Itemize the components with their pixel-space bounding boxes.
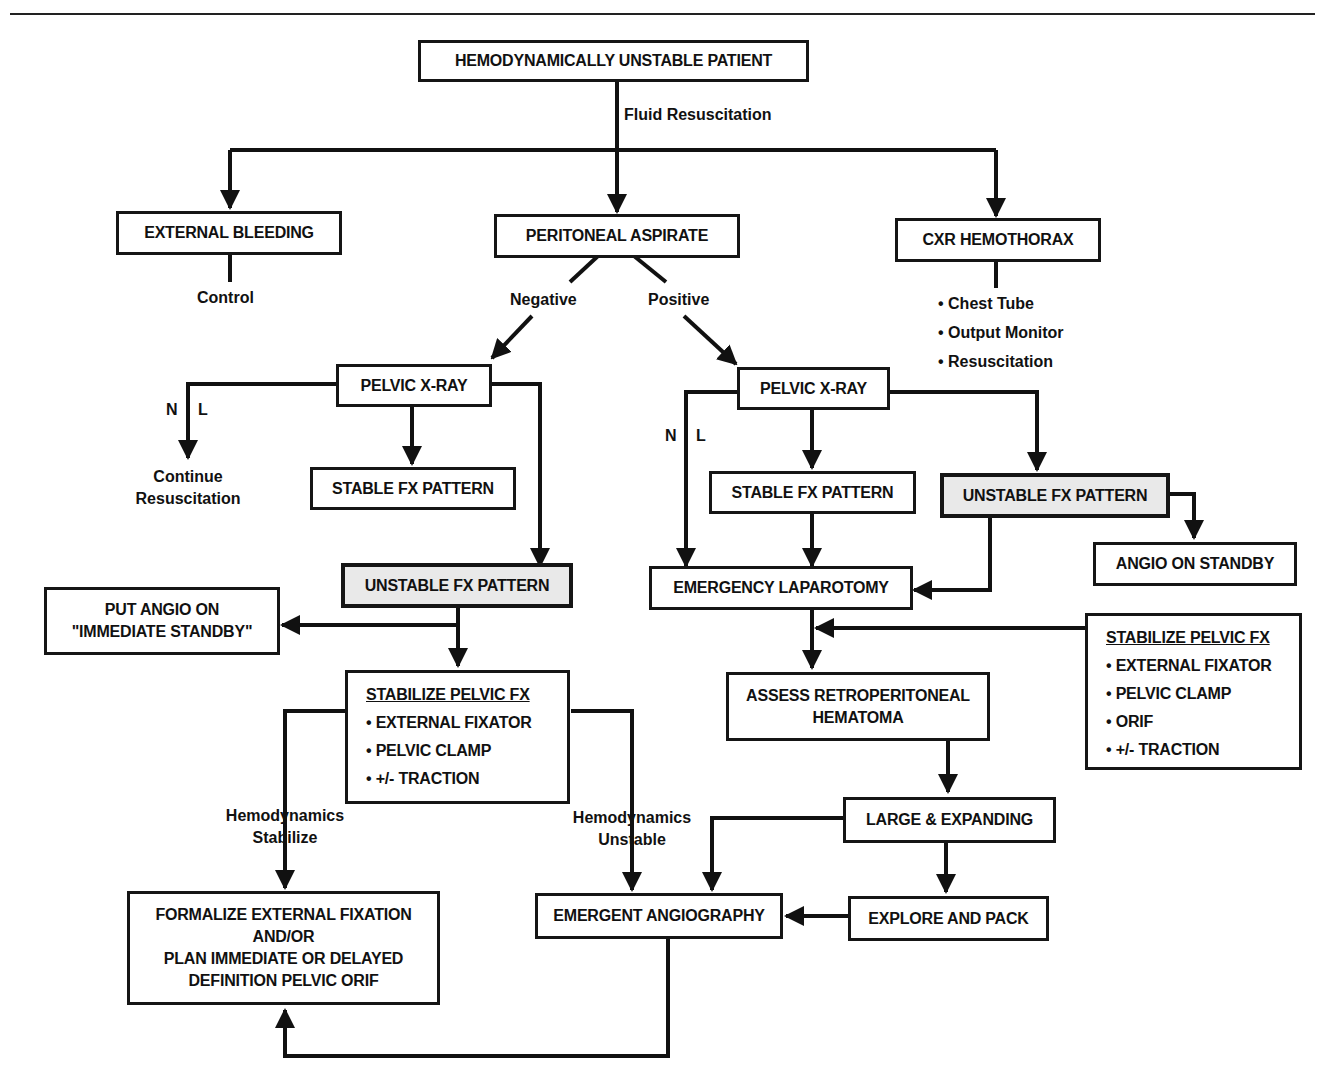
label-line: Unstable: [562, 829, 702, 851]
label-line: Resuscitation: [128, 488, 248, 510]
list-header: STABILIZE PELVIC FX: [366, 681, 530, 709]
node-label: PELVIC X-RAY: [760, 378, 867, 400]
edge-label-l-right: L: [696, 425, 706, 447]
label-line: Hemodynamics: [562, 807, 702, 829]
node-stabilize-pelvic-fx-right: STABILIZE PELVIC FX • EXTERNAL FIXATOR •…: [1085, 613, 1302, 770]
node-cxr-hemothorax: CXR HEMOTHORAX: [895, 218, 1101, 262]
list-item: • ORIF: [1106, 708, 1153, 736]
edge-label-continue-resuscitation: Continue Resuscitation: [128, 466, 248, 510]
node-label: STABLE FX PATTERN: [732, 482, 894, 504]
node-label: EMERGENT ANGIOGRAPHY: [553, 905, 764, 927]
node-put-angio-immediate-standby: PUT ANGIO ON "IMMEDIATE STANDBY": [44, 587, 280, 655]
node-label-line: HEMATOMA: [812, 707, 903, 729]
node-explore-and-pack: EXPLORE AND PACK: [848, 896, 1049, 941]
edge-label-n-left: N: [166, 399, 178, 421]
node-label: CXR HEMOTHORAX: [923, 229, 1074, 251]
node-label: EXPLORE AND PACK: [868, 908, 1028, 930]
node-assess-retroperitoneal-hematoma: ASSESS RETROPERITONEAL HEMATOMA: [726, 672, 990, 741]
label-line: Hemodynamics: [215, 805, 355, 827]
node-hemodynamically-unstable-patient: HEMODYNAMICALLY UNSTABLE PATIENT: [418, 40, 809, 82]
node-label: HEMODYNAMICALLY UNSTABLE PATIENT: [455, 50, 772, 72]
node-label-line: FORMALIZE EXTERNAL FIXATION: [155, 904, 411, 926]
node-label-line: PUT ANGIO ON: [105, 599, 219, 621]
cxr-action-list: • Chest Tube • Output Monitor • Resuscit…: [938, 289, 1064, 376]
edge-label-control: Control: [197, 287, 254, 309]
edge-label-positive: Positive: [648, 289, 709, 311]
list-item: • Chest Tube: [938, 289, 1064, 318]
node-large-and-expanding: LARGE & EXPANDING: [843, 797, 1056, 843]
node-label: UNSTABLE FX PATTERN: [365, 575, 550, 597]
list-item: • PELVIC CLAMP: [366, 737, 491, 765]
node-label-line: PLAN IMMEDIATE OR DELAYED: [164, 948, 403, 970]
edge-label-negative: Negative: [510, 289, 577, 311]
node-unstable-fx-right: UNSTABLE FX PATTERN: [940, 473, 1170, 518]
list-item: • EXTERNAL FIXATOR: [366, 709, 532, 737]
node-peritoneal-aspirate: PERITONEAL ASPIRATE: [494, 214, 740, 258]
node-external-bleeding: EXTERNAL BLEEDING: [116, 211, 342, 255]
edge-label-hemodynamics-unstable: Hemodynamics Unstable: [562, 807, 702, 851]
node-label-line: "IMMEDIATE STANDBY": [72, 621, 253, 643]
label-line: Stabilize: [215, 827, 355, 849]
node-label-line: DEFINITION PELVIC ORIF: [189, 970, 379, 992]
node-label: LARGE & EXPANDING: [866, 809, 1033, 831]
node-pelvic-xray-right: PELVIC X-RAY: [737, 367, 890, 410]
node-angio-on-standby: ANGIO ON STANDBY: [1093, 542, 1297, 586]
node-label: ANGIO ON STANDBY: [1116, 553, 1274, 575]
list-item: • +/- TRACTION: [366, 765, 479, 793]
node-label: EMERGENCY LAPAROTOMY: [673, 577, 889, 599]
edge-label-n-right: N: [665, 425, 677, 447]
node-label: PERITONEAL ASPIRATE: [526, 225, 708, 247]
edge-label-fluid-resuscitation: Fluid Resuscitation: [624, 104, 772, 126]
node-label: PELVIC X-RAY: [361, 375, 468, 397]
list-item: • EXTERNAL FIXATOR: [1106, 652, 1272, 680]
node-unstable-fx-left: UNSTABLE FX PATTERN: [341, 563, 573, 608]
list-item: • Resuscitation: [938, 347, 1064, 376]
node-label-line: ASSESS RETROPERITONEAL: [746, 685, 970, 707]
node-stabilize-pelvic-fx-left: STABILIZE PELVIC FX • EXTERNAL FIXATOR •…: [345, 670, 570, 804]
node-stable-fx-right: STABLE FX PATTERN: [709, 471, 916, 514]
node-emergent-angiography: EMERGENT ANGIOGRAPHY: [535, 893, 783, 939]
node-emergency-laparotomy: EMERGENCY LAPAROTOMY: [649, 566, 913, 610]
node-pelvic-xray-left: PELVIC X-RAY: [336, 364, 492, 407]
list-item: • +/- TRACTION: [1106, 736, 1219, 764]
node-label: STABLE FX PATTERN: [332, 478, 494, 500]
list-item: • PELVIC CLAMP: [1106, 680, 1231, 708]
label-line: Continue: [128, 466, 248, 488]
node-stable-fx-left: STABLE FX PATTERN: [310, 467, 516, 510]
list-item: • Output Monitor: [938, 318, 1064, 347]
node-formalize-external-fixation: FORMALIZE EXTERNAL FIXATION AND/OR PLAN …: [127, 891, 440, 1005]
list-header: STABILIZE PELVIC FX: [1106, 624, 1270, 652]
node-label: UNSTABLE FX PATTERN: [963, 485, 1148, 507]
edge-label-l-left: L: [198, 399, 208, 421]
node-label: EXTERNAL BLEEDING: [144, 222, 314, 244]
edge-label-hemodynamics-stabilize: Hemodynamics Stabilize: [215, 805, 355, 849]
node-label-line: AND/OR: [253, 926, 315, 948]
